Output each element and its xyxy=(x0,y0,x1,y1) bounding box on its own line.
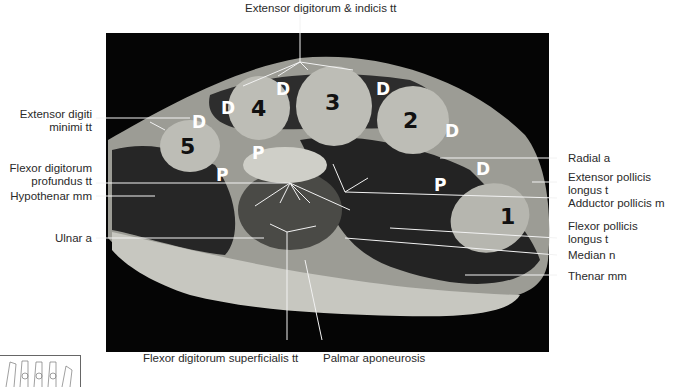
label-ulnar-artery: Ulnar a xyxy=(55,232,92,245)
label-line-1: Flexor digitorum xyxy=(10,162,92,174)
label-line-2: longus t xyxy=(568,233,608,245)
label-extensor-pollicis-longus: Extensor pollicis longus t xyxy=(568,171,651,197)
label-line-2: minimi tt xyxy=(49,121,92,133)
dorsal-interosseous-mark: D xyxy=(276,79,290,99)
label-extensor-digitorum-indicis: Extensor digitorum & indicis tt xyxy=(245,2,396,15)
metacarpal-3-label: 3 xyxy=(325,90,340,115)
dorsal-interosseous-mark: D xyxy=(476,159,490,179)
label-line-1: Extensor digiti xyxy=(20,108,92,120)
metacarpal-1-label: 1 xyxy=(500,204,515,229)
label-palmar-aponeurosis: Palmar aponeurosis xyxy=(323,352,425,365)
label-thenar: Thenar mm xyxy=(568,270,627,283)
palmar-interosseous-mark: P xyxy=(252,143,264,163)
metacarpal-2-label: 2 xyxy=(403,108,418,133)
orientation-inset xyxy=(0,355,81,387)
palmar-interosseous-mark: P xyxy=(434,175,446,195)
metacarpal-4-label: 4 xyxy=(251,96,266,121)
label-flexor-digitorum-profundus: Flexor digitorum profundus tt xyxy=(10,162,92,188)
label-flexor-digitorum-superficialis: Flexor digitorum superficialis tt xyxy=(143,352,298,365)
label-hypothenar: Hypothenar mm xyxy=(10,190,92,203)
label-adductor-pollicis: Adductor pollicis m xyxy=(568,197,665,210)
label-extensor-digiti-minimi: Extensor digiti minimi tt xyxy=(20,108,92,134)
label-line-2: profundus tt xyxy=(31,175,92,187)
label-line-1: Flexor pollicis xyxy=(568,220,638,232)
metacarpal-5-label: 5 xyxy=(180,134,195,159)
label-flexor-pollicis-longus: Flexor pollicis longus t xyxy=(568,220,638,246)
dorsal-interosseous-mark: D xyxy=(221,98,235,118)
label-line-2: longus t xyxy=(568,184,608,196)
label-line-1: Extensor pollicis xyxy=(568,171,651,183)
hand-bones-icon xyxy=(0,356,80,387)
dorsal-interosseous-mark: D xyxy=(445,121,459,141)
palmar-interosseous-mark: P xyxy=(216,165,228,185)
dorsal-interosseous-mark: D xyxy=(376,79,390,99)
dorsal-interosseous-mark: D xyxy=(192,112,206,132)
label-radial-artery: Radial a xyxy=(568,152,610,165)
label-median-nerve: Median n xyxy=(568,249,615,262)
